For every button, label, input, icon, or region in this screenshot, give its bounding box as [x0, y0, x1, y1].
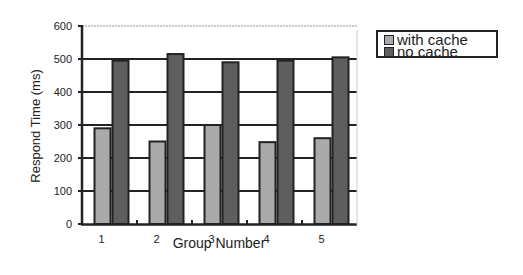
legend-label-no-cache: no cache: [397, 46, 458, 58]
bar-no-cache-group-2: [168, 54, 184, 224]
bar-with-cache-group-3: [205, 125, 221, 224]
bar-no-cache-group-3: [223, 62, 239, 224]
legend-swatch-with-cache: [384, 35, 394, 45]
y-tick-label: 500: [54, 53, 72, 65]
legend-item-no-cache: no cache: [384, 46, 496, 58]
bar-with-cache-group-4: [260, 142, 276, 224]
y-tick-label: 0: [66, 218, 72, 230]
y-tick-label: 300: [54, 119, 72, 131]
legend-swatch-no-cache: [384, 47, 394, 57]
y-axis-ticks: 0100200300400500600: [54, 20, 82, 230]
x-tick-label: 5: [318, 233, 324, 245]
legend: with cache no cache: [376, 30, 498, 58]
y-tick-label: 100: [54, 185, 72, 197]
y-tick-label: 600: [54, 20, 72, 32]
bar-no-cache-group-5: [333, 57, 349, 224]
y-axis-label: Respond Time (ms): [28, 69, 43, 182]
x-tick-label: 1: [98, 233, 104, 245]
x-tick-label: 2: [153, 233, 159, 245]
bars: [95, 54, 349, 224]
y-tick-label: 200: [54, 152, 72, 164]
y-tick-label: 400: [54, 86, 72, 98]
bar-with-cache-group-2: [150, 142, 166, 225]
bar-no-cache-group-1: [113, 61, 129, 224]
bar-with-cache-group-5: [315, 138, 331, 224]
bar-no-cache-group-4: [278, 61, 294, 224]
x-axis-label: Group Number: [173, 235, 266, 251]
bar-with-cache-group-1: [95, 128, 111, 224]
